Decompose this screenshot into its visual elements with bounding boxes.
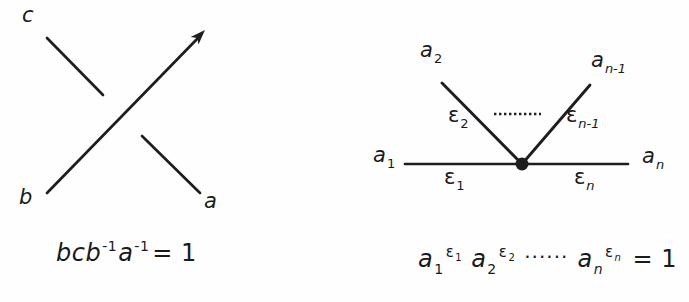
label-c: c xyxy=(22,5,34,26)
label-an: an xyxy=(642,146,664,167)
label-b: b xyxy=(19,187,32,208)
eq-left-b2: b xyxy=(85,239,101,267)
eq-left-exp2: -1 xyxy=(134,238,149,254)
label-a1: a1 xyxy=(373,145,395,166)
eq-left-exp1: -1 xyxy=(102,238,117,254)
eq-right-ellipsis: ······ xyxy=(524,245,568,269)
under-strand-upper-segment xyxy=(47,38,103,95)
eq-left-b1: b xyxy=(56,239,72,267)
label-eps-n-1: εn-1 xyxy=(566,105,600,126)
eq-left-rhs: = 1 xyxy=(152,239,197,267)
eq-right-term2: a2ε2 xyxy=(471,245,515,273)
left-equation: bcb-1a-1= 1 xyxy=(56,241,197,265)
label-eps2: ε2 xyxy=(448,105,469,126)
right-equation: a1ε1a2ε2······anεn= 1 xyxy=(418,247,677,271)
eq-right-term1: a1ε1 xyxy=(418,245,462,273)
under-strand-lower-segment xyxy=(142,136,200,193)
eq-right-rhs: = 1 xyxy=(632,245,677,273)
figure-canvas: c b a bcb-1a-1= 1 a2 an-1 a1 an ε2 εn-1 … xyxy=(0,0,689,302)
eq-left-a: a xyxy=(118,239,133,267)
label-an-1: an-1 xyxy=(591,50,626,71)
label-eps-n: εn xyxy=(574,167,595,188)
eq-right-term3: anεn xyxy=(577,245,621,273)
label-a: a xyxy=(204,191,217,212)
eq-left-c: c xyxy=(72,239,86,267)
vertex-dot xyxy=(516,158,529,171)
label-eps1: ε1 xyxy=(444,167,465,188)
label-a2: a2 xyxy=(420,40,442,61)
